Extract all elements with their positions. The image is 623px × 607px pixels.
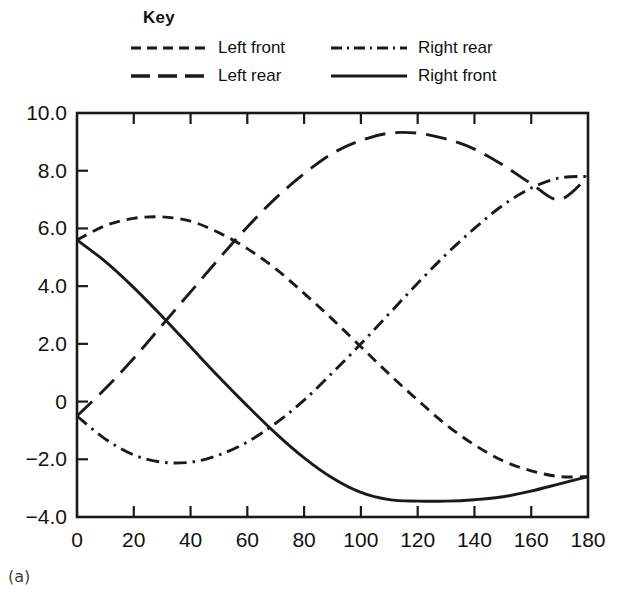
- line-chart: −4.0−2.002.04.06.08.010.0 02040608010012…: [0, 0, 623, 607]
- x-tick-label: 120: [400, 528, 435, 551]
- legend-title: Key: [143, 8, 550, 28]
- legend-entry-left-rear: Left rear: [130, 66, 330, 86]
- x-tick-label: 0: [71, 528, 83, 551]
- legend-label-left-rear: Left rear: [218, 66, 281, 86]
- legend-entry-right-rear: Right rear: [330, 38, 540, 58]
- legend-entry-right-front: Right front: [330, 66, 540, 86]
- legend-swatch-dash-dot: [330, 41, 408, 55]
- x-tick-label: 80: [292, 528, 315, 551]
- y-tick-label: 4.0: [38, 274, 67, 297]
- x-tick-label: 100: [343, 528, 378, 551]
- legend-swatch-short-dash: [130, 41, 208, 55]
- y-tick-label: 2.0: [38, 332, 67, 355]
- y-tick-label: −2.0: [26, 447, 67, 470]
- y-tick-label: 6.0: [38, 216, 67, 239]
- plot-frame: [77, 113, 588, 517]
- series-line-left-front: [77, 217, 588, 477]
- y-tick-label: 0: [55, 390, 67, 413]
- y-tick-label: −4.0: [26, 505, 67, 528]
- y-tick-label: 10.0: [26, 101, 67, 124]
- legend-entry-left-front: Left front: [130, 38, 330, 58]
- legend-label-left-front: Left front: [218, 38, 285, 58]
- x-tick-label: 140: [457, 528, 492, 551]
- x-tick-label: 180: [570, 528, 605, 551]
- y-axis-ticks: [77, 171, 88, 460]
- x-tick-label: 20: [122, 528, 145, 551]
- figure-caption: (a): [8, 567, 30, 586]
- x-axis-tick-labels: 020406080100120140160180: [71, 528, 605, 551]
- legend-label-right-rear: Right rear: [418, 38, 493, 58]
- x-axis-ticks: [134, 113, 531, 517]
- data-series-group: [77, 132, 588, 501]
- x-tick-label: 40: [179, 528, 202, 551]
- chart-legend: Key Left front Right rear Left rear Righ…: [130, 8, 550, 90]
- chart-plot-area: −4.0−2.002.04.06.08.010.0 02040608010012…: [0, 0, 623, 607]
- legend-entries: Left front Right rear Left rear Right fr…: [130, 34, 550, 90]
- x-tick-label: 60: [236, 528, 259, 551]
- y-axis-tick-labels: −4.0−2.002.04.06.08.010.0: [26, 101, 67, 528]
- legend-swatch-solid: [330, 69, 408, 83]
- legend-swatch-long-dash: [130, 69, 208, 83]
- y-tick-label: 8.0: [38, 159, 67, 182]
- legend-label-right-front: Right front: [418, 66, 496, 86]
- series-line-right-rear: [77, 176, 588, 463]
- series-line-left-rear: [77, 132, 588, 416]
- series-line-right-front: [77, 240, 588, 501]
- x-tick-label: 160: [514, 528, 549, 551]
